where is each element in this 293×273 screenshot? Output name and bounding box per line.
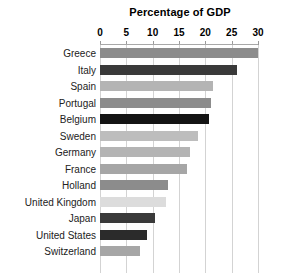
bar-italy	[100, 65, 237, 75]
bar-united-kingdom	[100, 197, 166, 207]
bar-label-japan: Japan	[69, 213, 96, 224]
bar-row: Portugal	[0, 95, 293, 112]
bar-label-belgium: Belgium	[60, 114, 96, 125]
bar-label-france: France	[65, 163, 96, 174]
bar-row: United Kingdom	[0, 194, 293, 211]
x-tick-label-5: 5	[124, 27, 130, 38]
bar-chart: Percentage of GDP 051015202530 GreeceIta…	[0, 0, 293, 273]
bar-label-italy: Italy	[78, 64, 96, 75]
x-tick-label-25: 25	[226, 27, 237, 38]
bar-label-greece: Greece	[63, 48, 96, 59]
x-tick-label-15: 15	[173, 27, 184, 38]
x-tick-label-0: 0	[97, 27, 103, 38]
x-tick-label-20: 20	[200, 27, 211, 38]
bar-label-germany: Germany	[55, 147, 96, 158]
bar-rows: GreeceItalySpainPortugalBelgiumSwedenGer…	[0, 45, 293, 273]
bar-label-switzerland: Switzerland	[44, 246, 96, 257]
bar-united-states	[100, 230, 147, 240]
bar-row: United States	[0, 227, 293, 244]
bar-japan	[100, 213, 155, 223]
bar-row: Belgium	[0, 111, 293, 128]
bar-label-portugal: Portugal	[59, 97, 96, 108]
bar-row: Switzerland	[0, 243, 293, 260]
bar-label-united-kingdom: United Kingdom	[25, 196, 96, 207]
bar-france	[100, 164, 187, 174]
chart-title: Percentage of GDP	[100, 6, 260, 18]
bar-row: France	[0, 161, 293, 178]
bar-germany	[100, 147, 190, 157]
bar-portugal	[100, 98, 211, 108]
bar-row: Greece	[0, 45, 293, 62]
bar-sweden	[100, 131, 198, 141]
bar-row: Italy	[0, 62, 293, 79]
bar-holland	[100, 180, 168, 190]
bar-switzerland	[100, 246, 140, 256]
x-tick-label-10: 10	[147, 27, 158, 38]
bar-label-sweden: Sweden	[60, 130, 96, 141]
x-tick-label-30: 30	[252, 27, 263, 38]
bar-row: Sweden	[0, 128, 293, 145]
bar-belgium	[100, 114, 209, 124]
bar-row: Spain	[0, 78, 293, 95]
bar-spain	[100, 81, 213, 91]
bar-row: Germany	[0, 144, 293, 161]
bar-row: Japan	[0, 210, 293, 227]
bar-label-united-states: United States	[36, 229, 96, 240]
bar-row: Holland	[0, 177, 293, 194]
bar-greece	[100, 48, 258, 58]
bar-label-spain: Spain	[70, 81, 96, 92]
x-axis-tick-labels: 051015202530	[0, 27, 293, 40]
plot-area: GreeceItalySpainPortugalBelgiumSwedenGer…	[0, 45, 293, 273]
bar-label-holland: Holland	[62, 180, 96, 191]
